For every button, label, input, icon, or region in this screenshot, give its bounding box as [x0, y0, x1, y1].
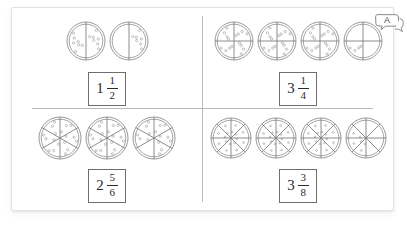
- quadrant-bottom-left: 2 5 6: [12, 109, 202, 208]
- fraction-numerator: 1: [299, 75, 309, 87]
- answer-box-bottom-left[interactable]: 2 5 6: [88, 169, 126, 203]
- answer-whole-number: 1: [96, 81, 104, 96]
- quadrant-top-left: 1 1 2: [12, 12, 202, 108]
- pizza-fraction-model: [66, 21, 106, 61]
- answer-whole-number: 2: [96, 178, 104, 193]
- pizza-fraction-model: [257, 21, 297, 61]
- pizza-fraction-model: [210, 117, 252, 159]
- answer-box-top-left[interactable]: 1 1 2: [88, 72, 126, 106]
- quadrant-top-right: 3 1 4: [203, 12, 393, 108]
- speech-bubble-icon[interactable]: A: [374, 12, 407, 37]
- answer-fraction: 1 4: [298, 75, 309, 102]
- pizza-fraction-model: [38, 116, 82, 160]
- answer-whole-number: 3: [287, 81, 295, 96]
- fraction-denominator: 8: [299, 187, 309, 199]
- pizza-fraction-model: [109, 21, 149, 61]
- quadrant-bottom-right: 3 3 8: [203, 109, 393, 208]
- answer-fraction: 5 6: [107, 172, 118, 199]
- pizza-fraction-model: [255, 117, 297, 159]
- fraction-denominator: 4: [299, 90, 309, 102]
- answer-fraction: 3 8: [298, 172, 309, 199]
- fraction-numerator: 1: [108, 75, 118, 87]
- pizza-fraction-model: [345, 117, 387, 159]
- pizza-fraction-model: [85, 116, 129, 160]
- fraction-denominator: 6: [108, 187, 118, 199]
- pizza-fraction-model: [132, 116, 176, 160]
- fraction-denominator: 2: [108, 90, 118, 102]
- fraction-numerator: 3: [299, 172, 309, 184]
- worksheet-card: 1 1 2 3 1 4: [11, 7, 394, 211]
- pizza-row-bottom-left: [38, 112, 176, 164]
- pizza-fraction-model: [300, 21, 340, 61]
- answer-fraction: 1 2: [107, 75, 118, 102]
- answer-box-top-right[interactable]: 3 1 4: [279, 72, 317, 106]
- answer-whole-number: 3: [287, 178, 295, 193]
- pizza-fraction-model: [214, 21, 254, 61]
- answer-box-bottom-right[interactable]: 3 3 8: [279, 169, 317, 203]
- pizza-fraction-model: [300, 117, 342, 159]
- fraction-numerator: 5: [108, 172, 118, 184]
- pizza-row-top-left: [66, 15, 149, 67]
- pizza-row-bottom-right: [210, 112, 387, 164]
- pizza-row-top-right: [214, 15, 383, 67]
- callout-label: A: [374, 12, 400, 28]
